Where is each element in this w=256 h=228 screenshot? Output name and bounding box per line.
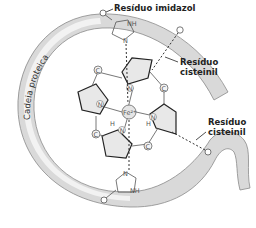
bottom-n-atom: N: [123, 170, 128, 178]
pyrrole-left: [78, 84, 108, 114]
imidazole-residue-label: Resíduo imidazol: [114, 3, 196, 13]
bottom-nh-atom: NH: [130, 187, 140, 195]
top-nh-atom: NH: [127, 20, 137, 28]
pyrrole-bottom: [102, 130, 132, 158]
right-cysteinyl-pointer: [196, 132, 206, 140]
top-cysteinyl-label-line1: Resíduo: [180, 57, 218, 67]
top-n-atom: N: [123, 37, 128, 45]
right-cysteinyl-bond: [172, 132, 205, 150]
heme-protein-diagram: Cadeia proteica NH N Resíduo imidazol Re…: [0, 0, 256, 228]
top-cysteinyl-pointer: [165, 57, 178, 62]
iron-label: Fe²⁺: [123, 109, 136, 117]
top-cysteinyl-label-line2: cisteinil: [180, 67, 218, 77]
h-atom-right: H: [146, 120, 151, 128]
svg-text:C: C: [146, 143, 151, 151]
top-cysteinyl-attachment: [177, 27, 183, 33]
svg-text:N: N: [98, 101, 103, 109]
imidazole-pointer: [106, 9, 113, 12]
svg-text:N: N: [120, 127, 125, 135]
svg-text:C: C: [162, 85, 167, 93]
right-cysteinyl-label-line2: cisteinil: [208, 127, 246, 137]
right-cysteinyl-label-line1: Resíduo: [208, 117, 246, 127]
protein-chain-label: Cadeia proteica: [22, 52, 51, 120]
svg-text:C: C: [94, 131, 99, 139]
svg-text:N: N: [151, 114, 156, 122]
h-atom-left: H: [110, 120, 115, 128]
svg-text:C: C: [96, 67, 101, 75]
svg-text:N: N: [128, 85, 133, 93]
right-cysteinyl-attachment: [205, 149, 211, 155]
